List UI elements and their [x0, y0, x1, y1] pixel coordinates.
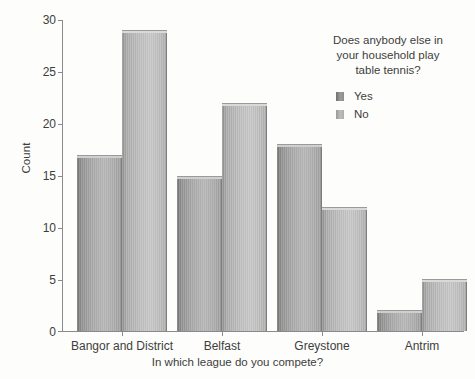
y-tick-label-0: 0 [30, 326, 56, 338]
bar-fill [222, 106, 267, 331]
x-axis-title: In which league do you compete? [0, 356, 475, 368]
bar-greystone-no [322, 207, 367, 331]
bar-fill [322, 210, 367, 331]
legend-title-line-3: table tennis? [308, 63, 468, 78]
x-tick-mark-belfast [222, 331, 223, 336]
y-tick-label-10: 10 [30, 222, 56, 234]
y-tick-label-30: 30 [30, 14, 56, 26]
bar-fill [277, 147, 322, 331]
bar-antrim-yes [377, 310, 422, 331]
bar-fill [77, 158, 122, 331]
x-cat-label-greystone: Greystone [294, 339, 349, 353]
bar-fill [177, 179, 222, 332]
legend-title: Does anybody else in your household play… [308, 33, 468, 78]
x-cat-label-antrim: Antrim [405, 339, 440, 353]
x-tick-mark-bangor-and-district [122, 331, 123, 336]
y-tick-label-5: 5 [30, 274, 56, 286]
legend-title-line-1: Does anybody else in [308, 33, 468, 48]
bar-fill [422, 282, 467, 331]
legend-item-yes: Yes [336, 87, 468, 105]
legend-items: Yes No [308, 87, 468, 123]
bar-fill [377, 313, 422, 331]
x-cat-label-belfast: Belfast [204, 339, 241, 353]
y-tick-label-20: 20 [30, 118, 56, 130]
bar-belfast-yes [177, 176, 222, 332]
bar-bangor-and-district-yes [77, 155, 122, 331]
legend-title-line-2: your household play [308, 48, 468, 63]
legend-swatch-icon-no [336, 110, 344, 119]
bar-greystone-yes [277, 144, 322, 331]
y-axis-title: Count [20, 118, 32, 198]
bar-belfast-no [222, 103, 267, 331]
y-tick-label-15: 15 [30, 170, 56, 182]
legend-label-no: No [354, 108, 369, 120]
x-tick-mark-antrim [422, 331, 423, 336]
y-tick-label-25: 25 [30, 66, 56, 78]
bar-bangor-and-district-no [122, 30, 167, 331]
x-tick-mark-greystone [322, 331, 323, 336]
bar-fill [122, 33, 167, 331]
legend-item-no: No [336, 105, 468, 123]
bar-antrim-no [422, 279, 467, 331]
bar-chart: Count 30 25 20 15 10 5 0 [0, 0, 475, 379]
legend-swatch-icon-yes [336, 92, 344, 101]
legend: Does anybody else in your household play… [308, 33, 468, 123]
legend-label-yes: Yes [354, 90, 373, 102]
x-cat-label-bangor-and-district: Bangor and District [71, 339, 173, 353]
